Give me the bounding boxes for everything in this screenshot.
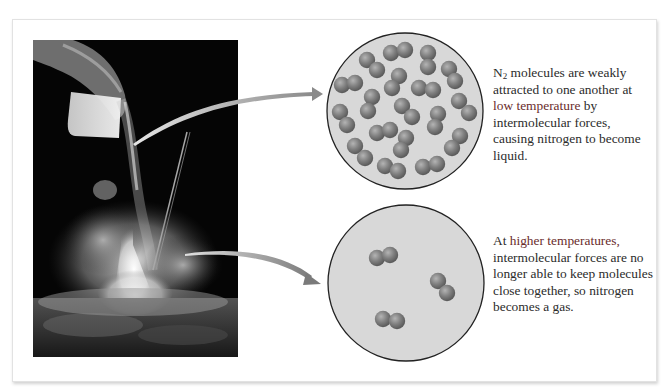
gas-molecules-circle — [328, 205, 484, 361]
nitrogen-atom — [461, 105, 477, 121]
nitrogen-atom — [397, 42, 413, 58]
nitrogen-atom — [382, 247, 398, 263]
gas-text-after: intermolecular forces are no longer able… — [493, 250, 653, 315]
nitrogen-atom — [429, 156, 445, 172]
nitrogen-atom — [404, 109, 420, 125]
diagram-overlay — [0, 0, 667, 392]
nitrogen-atom — [383, 45, 399, 61]
nitrogen-atom — [369, 62, 385, 78]
key-term-higher-temperatures: higher temperatures, — [510, 233, 620, 248]
nitrogen-atom — [357, 150, 373, 166]
liquid-caption: N2 molecules are weakly attracted to one… — [493, 65, 653, 165]
liquid-molecules-circle — [327, 33, 483, 189]
nitrogen-atom — [420, 45, 436, 61]
nitrogen-atom — [382, 122, 398, 138]
key-term-low-temperature: low temperature — [493, 98, 580, 113]
arrow-to-liquid — [133, 87, 323, 146]
nitrogen-atom — [390, 163, 406, 179]
nitrogen-atom — [393, 142, 409, 158]
arrow-to-gas — [185, 251, 321, 285]
nitrogen-atom — [347, 75, 363, 91]
nitrogen-atom — [439, 285, 455, 301]
liquid-text-before: molecules are weakly attracted to one an… — [493, 65, 632, 97]
nitrogen-atom — [411, 80, 427, 96]
gas-caption: At higher temperatures, intermolecular f… — [493, 233, 653, 316]
nitrogen-atom — [444, 140, 460, 156]
nitrogen-atom — [420, 59, 436, 75]
nitrogen-atom — [364, 89, 380, 105]
nitrogen-atom — [415, 159, 431, 175]
nitrogen-atom — [389, 313, 405, 329]
nitrogen-atom — [384, 80, 400, 96]
nitrogen-atom — [427, 119, 443, 135]
nitrogen-atom — [339, 117, 355, 133]
nitrogen-atom — [425, 82, 441, 98]
gas-text-before: At — [493, 233, 510, 248]
nitrogen-atom — [375, 311, 391, 327]
nitrogen-atom — [360, 103, 376, 119]
nitrogen-atom — [447, 73, 463, 89]
formula-n: N — [493, 65, 503, 80]
